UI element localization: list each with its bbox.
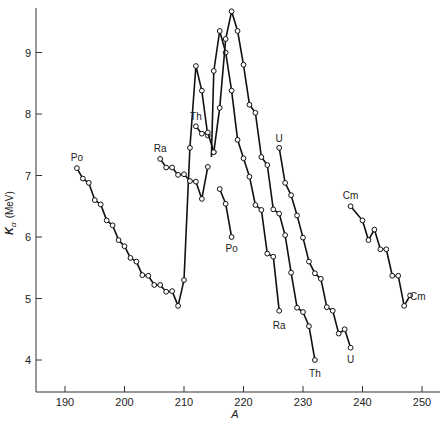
data-point-marker — [140, 273, 145, 278]
data-point-marker — [92, 198, 97, 203]
series-label-u: U — [276, 133, 283, 144]
x-tick: 230 — [294, 386, 312, 408]
y-tick-label: 9 — [25, 47, 31, 59]
data-point-marker — [283, 180, 288, 185]
data-point-marker — [223, 37, 228, 42]
data-point-marker — [301, 310, 306, 315]
data-point-marker — [217, 105, 222, 110]
data-point-marker — [98, 202, 103, 207]
x-tick: 200 — [115, 386, 133, 408]
data-point-marker — [307, 324, 312, 329]
svg-text:Kα(MeV): Kα(MeV) — [3, 191, 18, 235]
series-line — [220, 189, 232, 237]
y-tick: 4 — [25, 354, 42, 366]
data-point-marker — [360, 218, 365, 223]
data-point-marker — [277, 308, 282, 313]
data-point-marker — [247, 174, 252, 179]
data-point-marker — [235, 29, 240, 34]
data-point-marker — [313, 271, 318, 276]
series-cm: CmCm — [343, 190, 426, 308]
data-point-marker — [188, 145, 193, 150]
data-point-marker — [372, 227, 377, 232]
series-line — [77, 66, 208, 306]
data-point-marker — [283, 233, 288, 238]
y-tick: 7 — [25, 170, 42, 182]
data-point-marker — [241, 62, 246, 67]
data-point-marker — [182, 172, 187, 177]
data-point-marker — [247, 102, 252, 107]
y-tick: 5 — [25, 293, 42, 305]
data-point-marker — [134, 259, 139, 264]
y-axis-title-unit: (MeV) — [4, 191, 15, 218]
y-tick-label: 7 — [25, 170, 31, 182]
data-point-marker — [158, 283, 163, 288]
data-point-marker — [253, 203, 258, 208]
data-point-marker — [378, 247, 383, 252]
data-point-marker — [211, 150, 216, 155]
series-line — [279, 148, 350, 348]
series-label-th: Th — [190, 111, 202, 122]
data-point-marker — [307, 259, 312, 264]
data-point-marker — [116, 238, 121, 243]
y-tick-label: 8 — [25, 108, 31, 120]
plot-area: PoPoRaRaThThUUCmCm — [71, 9, 426, 379]
y-tick-label: 5 — [25, 293, 31, 305]
data-point-marker — [229, 235, 234, 240]
data-point-marker — [241, 156, 246, 161]
data-point-marker — [324, 305, 329, 310]
data-point-marker — [265, 251, 270, 256]
series-label-u: U — [347, 354, 354, 365]
data-point-marker — [259, 155, 264, 160]
data-point-marker — [122, 244, 127, 249]
x-ticks: 190200210220230240250 — [56, 386, 431, 408]
data-point-marker — [199, 88, 204, 93]
y-axis-title-subscript: α — [9, 222, 18, 227]
x-tick-label: 190 — [56, 396, 74, 408]
alpha-energy-chart: 456789 190200210220230240250 A Kα(MeV) P… — [0, 0, 447, 426]
data-point-marker — [86, 180, 91, 185]
data-point-marker — [396, 273, 401, 278]
data-point-marker — [229, 88, 234, 93]
data-point-marker — [158, 156, 163, 161]
data-point-marker — [271, 207, 276, 212]
x-tick-label: 240 — [353, 396, 371, 408]
data-point-marker — [235, 137, 240, 142]
series-ra: RaRa — [154, 29, 286, 332]
data-point-marker — [199, 131, 204, 136]
series-label-ra: Ra — [154, 143, 167, 154]
x-tick: 190 — [56, 386, 74, 408]
data-point-marker — [75, 166, 80, 171]
x-tick-label: 210 — [175, 396, 193, 408]
data-point-marker — [295, 213, 300, 218]
axes: 456789 190200210220230240250 A Kα(MeV) — [3, 8, 440, 420]
data-point-marker — [330, 308, 335, 313]
series-label-cm: Cm — [343, 190, 359, 201]
data-point-marker — [384, 247, 389, 252]
data-point-marker — [217, 187, 222, 192]
data-point-marker — [176, 172, 181, 177]
x-tick: 240 — [353, 386, 371, 408]
data-point-marker — [199, 196, 204, 201]
data-point-marker — [277, 211, 282, 216]
data-point-marker — [170, 165, 175, 170]
x-axis-title: A — [230, 408, 238, 420]
data-point-marker — [277, 145, 282, 150]
data-point-marker — [301, 235, 306, 240]
series-label-th: Th — [309, 368, 321, 379]
data-point-marker — [146, 273, 151, 278]
series-label-cm: Cm — [410, 291, 426, 302]
data-point-marker — [194, 179, 199, 184]
data-point-marker — [188, 179, 193, 184]
y-axis-title: Kα(MeV) — [3, 191, 18, 235]
series-label-po: Po — [225, 243, 238, 254]
data-point-marker — [390, 273, 395, 278]
series-line — [351, 206, 411, 306]
data-point-marker — [313, 358, 318, 363]
data-point-marker — [211, 69, 216, 74]
x-tick-label: 230 — [294, 396, 312, 408]
x-tick-label: 200 — [115, 396, 133, 408]
y-tick: 9 — [25, 47, 42, 59]
data-point-marker — [295, 305, 300, 310]
data-point-marker — [194, 64, 199, 69]
data-point-marker — [342, 327, 347, 332]
